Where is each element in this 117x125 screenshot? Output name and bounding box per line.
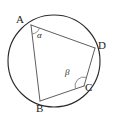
vertex-label-a: A	[16, 14, 24, 25]
vertex-label-b: B	[36, 103, 43, 114]
geometry-figure: A B C D α β	[0, 0, 117, 125]
circumscribed-circle	[8, 15, 100, 107]
angle-label-alpha: α	[37, 31, 42, 40]
chord-b-c	[40, 86, 84, 101]
vertex-label-c: C	[85, 82, 92, 93]
vertex-label-d: D	[98, 40, 106, 51]
angle-label-beta: β	[65, 68, 69, 77]
